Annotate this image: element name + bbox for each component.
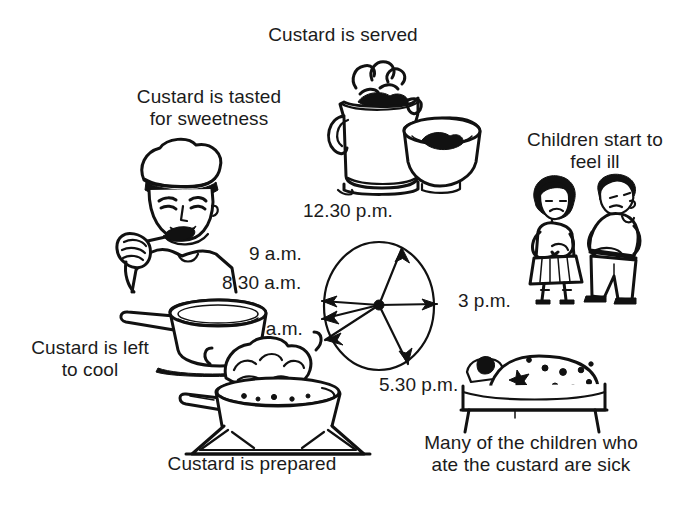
child-in-bed-svg xyxy=(455,348,607,434)
label-children-start-to-feel-ill: Children start to feel ill xyxy=(515,129,675,174)
arrow-530pm xyxy=(379,305,412,364)
steam-wisps xyxy=(353,62,405,94)
chef-tasting-svg xyxy=(112,132,262,292)
bed-leg-right xyxy=(595,410,599,432)
label-many-children-are-sick: Many of the children who ate the custard… xyxy=(404,432,658,477)
saucepan-burner-svg xyxy=(180,330,376,456)
time-label-3pm: 3 p.m. xyxy=(458,290,511,312)
sick-child-head xyxy=(477,357,495,374)
illustration-child-in-bed xyxy=(455,348,607,434)
boy-trousers xyxy=(591,256,636,300)
cooling-pan-handle xyxy=(121,312,174,330)
arrow-3pm xyxy=(379,299,437,310)
time-label-1230pm: 12.30 p.m. xyxy=(303,200,393,222)
label-custard-is-tasted: Custard is tasted for sweetness xyxy=(118,86,300,131)
illustration-chef-tasting xyxy=(112,132,262,292)
chef-hat xyxy=(142,139,221,187)
children-ill-svg xyxy=(522,172,662,304)
girl-figure xyxy=(530,176,582,304)
time-label-530pm: 5.30 p.m. xyxy=(379,374,458,396)
boy-figure xyxy=(584,174,640,304)
bed-leg-left xyxy=(465,410,469,432)
girl-skirt xyxy=(530,256,582,284)
boy-face xyxy=(600,180,633,214)
diagram-canvas: Custard is served Custard is tasted for … xyxy=(0,0,678,506)
jug-and-bowl-svg xyxy=(322,58,482,200)
arrow-9am xyxy=(322,296,379,307)
arrow-830am xyxy=(322,305,379,324)
label-custard-is-served: Custard is served xyxy=(258,24,428,46)
arrow-1230pm xyxy=(379,248,410,305)
label-custard-is-prepared: Custard is prepared xyxy=(152,453,352,475)
burner-steam xyxy=(314,332,321,350)
illustration-children-ill xyxy=(522,172,662,304)
illustration-jug-and-bowl xyxy=(322,58,482,200)
illustration-saucepan-on-burner xyxy=(180,330,376,456)
